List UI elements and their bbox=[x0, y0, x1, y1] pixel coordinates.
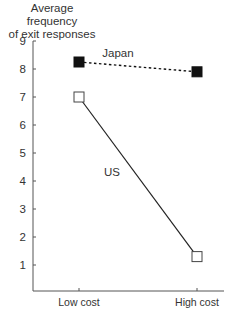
series-line-us bbox=[79, 97, 197, 257]
y-tick-label: 9 bbox=[20, 35, 26, 47]
filled-square-marker-icon bbox=[192, 67, 202, 77]
series-label-us: US bbox=[104, 166, 120, 178]
y-tick-label: 3 bbox=[20, 203, 26, 215]
y-tick-label: 4 bbox=[20, 175, 27, 187]
filled-square-marker-icon bbox=[74, 57, 84, 67]
x-tick-label: High cost bbox=[175, 296, 219, 308]
series-line-japan bbox=[79, 62, 197, 72]
y-tick-label: 1 bbox=[20, 259, 26, 271]
y-tick-label: 5 bbox=[20, 147, 26, 159]
y-tick-label: 6 bbox=[20, 119, 26, 131]
y-tick-label: 7 bbox=[20, 91, 26, 103]
series-label-japan: Japan bbox=[102, 47, 133, 59]
line-chart: 123456789Low costHigh cost JapanUS bbox=[0, 0, 235, 318]
y-tick-label: 2 bbox=[20, 231, 26, 243]
y-tick-label: 8 bbox=[20, 63, 26, 75]
open-square-marker-icon bbox=[74, 92, 84, 102]
series-layer: JapanUS bbox=[74, 47, 202, 262]
open-square-marker-icon bbox=[192, 252, 202, 262]
x-tick-label: Low cost bbox=[58, 296, 100, 308]
